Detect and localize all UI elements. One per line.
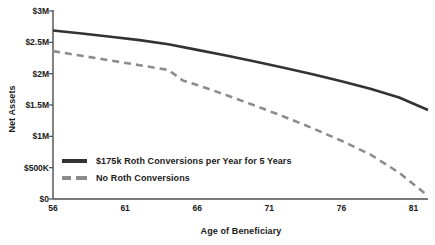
net-assets-line-chart: Net Assets $0$500K$1M$1.5M$2M$2.5M$3M 56… [0, 0, 435, 245]
x-tick-label: 66 [177, 203, 217, 213]
series-line-1 [53, 30, 428, 110]
x-tick-label: 61 [105, 203, 145, 213]
legend-label-roth-conversions: $175k Roth Conversions per Year for 5 Ye… [96, 156, 292, 166]
x-tick-label: 81 [394, 203, 434, 213]
legend-label-no-roth-conversions: No Roth Conversions [96, 173, 190, 183]
legend-item-dashed: No Roth Conversions [62, 169, 292, 186]
legend-item-solid: $175k Roth Conversions per Year for 5 Ye… [62, 152, 292, 169]
x-tick-label: 76 [321, 203, 361, 213]
x-tick-label: 71 [249, 203, 289, 213]
x-axis-title: Age of Beneficiary [53, 226, 429, 236]
x-tick-label: 56 [33, 203, 73, 213]
chart-legend: $175k Roth Conversions per Year for 5 Ye… [62, 152, 292, 186]
legend-swatch-solid-line-icon [62, 159, 87, 163]
legend-swatch-dashed-line-icon [62, 176, 87, 180]
